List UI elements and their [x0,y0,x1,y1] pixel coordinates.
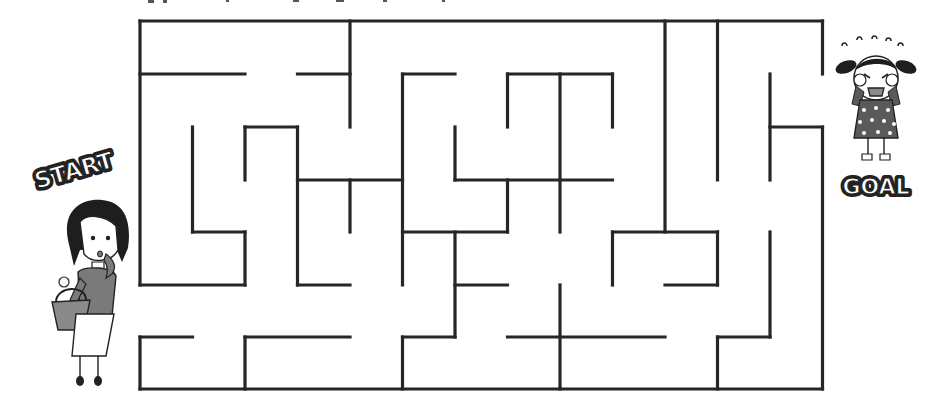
start-label-text: START [31,147,116,194]
maze-walls [140,21,823,389]
goal-label-text: GOAL [842,174,909,199]
start-label: START START [31,147,116,194]
goal-character-girl [834,36,919,160]
cropped-header-text [148,0,445,3]
maze-canvas: START START [0,0,940,416]
start-character-woman [52,200,129,386]
goal-label: GOAL GOAL [842,174,909,199]
